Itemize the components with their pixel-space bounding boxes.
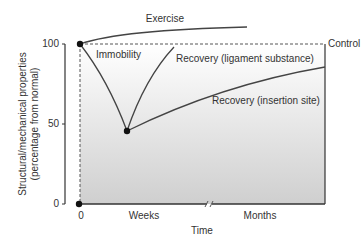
y-tick-label-0: 0	[53, 198, 59, 209]
chart: 100 50 0 Structural/mechanical propertie…	[0, 0, 364, 251]
start-point-dot	[77, 41, 83, 47]
y-tick-label-100: 100	[42, 38, 59, 49]
ligament-recovery-label: Recovery (ligament substance)	[176, 53, 314, 64]
minimum-point-dot	[124, 128, 130, 134]
x-axis-label: Time	[191, 225, 213, 236]
control-label: Control	[328, 38, 360, 49]
x-tick-label-months: Months	[244, 210, 277, 221]
immobility-label: Immobility	[96, 49, 141, 60]
exercise-label: Exercise	[146, 13, 185, 24]
exercise-curve	[80, 27, 247, 44]
plot-area	[80, 44, 325, 204]
origin-dot	[76, 201, 82, 207]
x-tick-label-weeks: Weeks	[129, 210, 159, 221]
y-axis-label-line1: Structural/mechanical properties	[17, 52, 28, 195]
x-tick-label-0: 0	[78, 210, 84, 221]
insertion-recovery-label: Recovery (insertion site)	[212, 95, 320, 106]
y-tick-label-50: 50	[48, 118, 60, 129]
y-axis-label-line2: (percentage from normal)	[29, 68, 40, 181]
